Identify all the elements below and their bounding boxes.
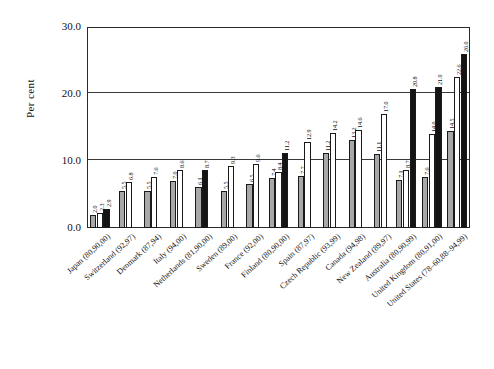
bar: 8.4 xyxy=(275,172,281,228)
bar: 12.9 xyxy=(304,142,310,228)
bar: 5.5 xyxy=(144,191,150,228)
bar-group: 5.59.3 xyxy=(221,27,234,228)
bar: 7.6 xyxy=(151,177,157,228)
bar: 14.5 xyxy=(447,131,453,228)
bar-value-label: 17.0 xyxy=(382,102,389,112)
bar-value-label: 11.2 xyxy=(283,141,290,151)
bar-group: 11.214.2 xyxy=(323,27,336,228)
bar: 14.2 xyxy=(330,133,336,228)
bar: 8.7 xyxy=(403,170,409,228)
bar: 7.6 xyxy=(422,177,428,228)
bar: 22.6 xyxy=(454,77,460,228)
bar: 17.0 xyxy=(381,114,387,228)
bar: 5.5 xyxy=(221,191,227,228)
bar-group: 7.48.411.2 xyxy=(269,27,289,228)
bar: 6.5 xyxy=(246,184,252,228)
bar-group: 2.02.32.9 xyxy=(90,27,110,228)
bar: 26.0 xyxy=(461,54,467,228)
bar-group: 7.08.6 xyxy=(170,27,183,228)
bar-group: 5.56.8 xyxy=(119,27,132,228)
bar: 7.4 xyxy=(269,178,275,228)
bar-group: 5.57.6 xyxy=(144,27,157,228)
bar-value-label: 21.0 xyxy=(436,75,443,85)
bar: 8.7 xyxy=(202,170,208,228)
bar-value-label: 7.6 xyxy=(152,168,159,175)
bar: 7.7 xyxy=(298,176,304,228)
bar-value-label: 8.6 xyxy=(178,161,185,168)
bar-value-label: 8.7 xyxy=(203,160,210,167)
bar-value-label: 14.6 xyxy=(356,118,363,128)
bar: 2.9 xyxy=(103,209,109,228)
y-axis-tick: 0.0 xyxy=(26,221,81,233)
y-axis-tick: 20.0 xyxy=(26,87,81,99)
bar: 2.3 xyxy=(97,213,103,228)
bar: 21.0 xyxy=(435,87,441,228)
bar: 7.0 xyxy=(170,181,176,228)
bar: 9.6 xyxy=(253,164,259,228)
y-axis-tick: 30.0 xyxy=(26,20,81,32)
bar-group: 7.712.9 xyxy=(298,27,311,228)
bar: 7.1 xyxy=(396,180,402,228)
bar-group: 14.522.626.0 xyxy=(447,27,467,228)
bar: 6.1 xyxy=(195,187,201,228)
bar-value-label: 9.6 xyxy=(254,154,261,161)
bar-group: 7.614.021.0 xyxy=(422,27,442,228)
bar: 14.6 xyxy=(355,130,361,228)
bar: 14.0 xyxy=(429,134,435,228)
bar-layer: 2.02.32.95.56.85.57.67.08.66.18.75.59.36… xyxy=(87,27,470,228)
bar: 20.8 xyxy=(410,89,416,228)
bar: 11.2 xyxy=(323,153,329,228)
bar-group: 11.117.0 xyxy=(374,27,387,228)
bar-value-label: 2.9 xyxy=(105,199,112,206)
bar: 11.1 xyxy=(374,154,380,228)
bar: 11.2 xyxy=(282,153,288,228)
bar-value-label: 12.9 xyxy=(305,129,312,139)
bar-group: 7.18.720.8 xyxy=(396,27,416,228)
bar: 8.6 xyxy=(177,170,183,228)
bar: 9.3 xyxy=(228,166,234,228)
bar-value-label: 14.2 xyxy=(331,120,338,130)
bar-value-label: 9.3 xyxy=(229,156,236,163)
bar-group: 6.59.6 xyxy=(246,27,259,228)
bar: 6.8 xyxy=(126,182,132,228)
bar-value-label: 20.8 xyxy=(411,76,418,86)
bar: 5.5 xyxy=(119,191,125,228)
y-axis-tick: 10.0 xyxy=(26,154,81,166)
bar: 2.0 xyxy=(90,215,96,228)
bar-group: 13.214.6 xyxy=(349,27,362,228)
bar-value-label: 2.0 xyxy=(91,205,98,212)
bar-value-label: 6.8 xyxy=(127,173,134,180)
bar-group: 6.18.7 xyxy=(195,27,208,228)
bar: 13.2 xyxy=(349,140,355,228)
bar-value-label: 26.0 xyxy=(462,41,469,51)
chart-container: Per cent 0.010.020.030.0 2.02.32.95.56.8… xyxy=(0,0,494,369)
